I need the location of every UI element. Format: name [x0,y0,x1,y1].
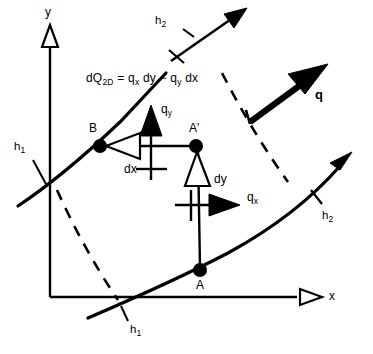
h1-left-sub: 1 [20,145,25,155]
dashed-flowline-left [57,190,118,300]
q-x-label: qx [247,191,258,203]
q-y-arrowhead-icon [140,105,162,136]
isotherm-curves [18,8,352,318]
point-b-dot [93,139,107,153]
dx-differential-arrow [106,133,140,159]
h2-right-sub: 2 [328,214,333,224]
h1-bottom-sub: 1 [136,328,141,338]
isotherm-h2-right-label: h2 [322,210,333,222]
q-resultant-label: q [315,88,323,101]
point-a-dot [193,263,207,277]
dashed-flowlines [57,73,288,300]
point-a-label: A [196,279,204,291]
x-axis-arrowhead-icon [300,289,322,305]
isotherm-h1-curve [18,73,166,206]
h2-top-sub: 2 [161,19,166,29]
dashed-flowline-right [222,73,288,182]
dx-label: dx [124,163,137,175]
equation-minus: − [160,71,167,85]
point-aprime-label: A' [189,122,199,134]
flux-equation: dQ2D = qx dy − qy dx [86,72,198,84]
heat-flux-diagram: y x dQ2D = qx dy − qy dx B A' A dx dy qy… [0,0,373,354]
point-b-label: B [89,122,97,134]
top-flux-arrowhead-icon [224,8,247,28]
equation-lhs-main: dQ [86,71,102,85]
top-flux-arrow-shaft [171,15,237,61]
isotherm-h2-arrowhead-icon [330,152,352,170]
q-y-main: q [161,102,168,116]
isotherm-h2-top-label: h2 [155,15,166,27]
y-axis-label: y [45,6,51,18]
equation-term2-diff: dx [185,71,198,85]
y-axis-arrowhead-icon [42,25,58,47]
leader-h1-left [33,160,47,186]
leader-h2-top [183,29,194,37]
q-x-main: q [247,190,254,204]
axis-group [42,25,322,305]
x-axis-label: x [329,290,335,302]
q-y-sub: y [168,108,172,118]
isotherm-h1-bottom-label: h1 [130,324,141,336]
dy-label: dy [214,173,227,185]
equation-term1-main: q [128,71,135,85]
equation-term1-sub: x [135,77,139,87]
q-x-sub: x [254,196,258,206]
dy-differential-arrow [185,152,210,186]
leader-h1-bottom [121,306,128,321]
isotherm-h1-left-label: h1 [14,141,25,153]
equation-term1-diff: dy [143,71,156,85]
q-x-arrowhead-icon [209,194,240,216]
diagram-canvas [0,0,373,354]
equation-lhs-sub: 2D [102,77,113,87]
equation-term2-sub: y [177,77,181,87]
dy-arrowhead-icon [185,152,210,186]
q-y-label: qy [161,103,172,115]
point-aprime-dot [189,139,203,153]
q-x-vector [175,190,240,221]
dx-arrowhead-icon [106,133,140,159]
